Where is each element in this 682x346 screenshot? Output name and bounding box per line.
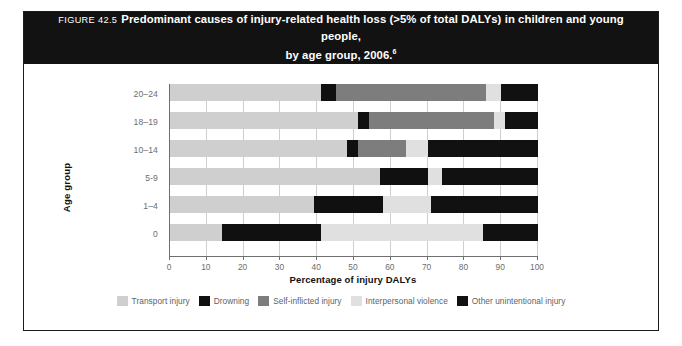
y-tick-label: 10–14: [96, 145, 158, 155]
x-tick-mark: [500, 256, 501, 260]
bar-segment: [336, 84, 487, 101]
x-tick-mark: [463, 256, 464, 260]
x-tick-label: 90: [485, 262, 515, 272]
y-axis-tick-labels: 20–2418–1910–145-91–40: [96, 86, 164, 254]
bar-segment: [222, 224, 321, 241]
legend-label: Interpersonal violence: [366, 296, 448, 306]
legend-label: Other unintentional injury: [472, 296, 566, 306]
x-tick-label: 30: [264, 262, 294, 272]
legend-item: Self-inflicted injury: [258, 296, 341, 306]
x-tick-label: 100: [522, 262, 552, 272]
bar-segment: [321, 224, 483, 241]
x-tick-label: 60: [375, 262, 405, 272]
bar-segment: [428, 140, 538, 157]
bar-segment: [170, 168, 380, 185]
legend-swatch: [457, 296, 468, 306]
bar-segment: [431, 196, 538, 213]
x-tick-mark: [390, 256, 391, 260]
y-tick-label: 5-9: [96, 173, 158, 183]
legend-label: Transport injury: [132, 296, 190, 306]
bar-segment: [442, 168, 538, 185]
y-axis-title: Age group: [61, 128, 72, 248]
y-tick-label: 20–24: [96, 89, 158, 99]
x-tick-mark: [537, 256, 538, 260]
figure-title-line-1: Predominant causes of injury-related hea…: [121, 13, 623, 42]
bar-row: [170, 112, 538, 129]
y-tick-label: 1–4: [96, 201, 158, 211]
chart-plot-area: Age group 20–2418–1910–145-91–40 0102030…: [24, 64, 658, 331]
stacked-bars: [170, 84, 538, 256]
x-tick-mark: [353, 256, 354, 260]
bar-segment: [358, 140, 406, 157]
bar-segment: [483, 224, 538, 241]
legend-swatch: [117, 296, 128, 306]
x-tick-label: 0: [154, 262, 184, 272]
x-tick-label: 40: [301, 262, 331, 272]
bar-segment: [347, 140, 358, 157]
legend-swatch: [351, 296, 362, 306]
x-tick-label: 20: [228, 262, 258, 272]
bar-segment: [170, 84, 321, 101]
bar-segment: [170, 112, 358, 129]
y-tick-label: 0: [96, 229, 158, 239]
bar-segment: [494, 112, 505, 129]
bar-segment: [383, 196, 431, 213]
bar-row: [170, 168, 538, 185]
bar-segment: [321, 84, 336, 101]
bar-segment: [486, 84, 501, 101]
x-tick-mark: [169, 256, 170, 260]
bar-segment: [170, 224, 222, 241]
y-tick-label: 18–19: [96, 117, 158, 127]
x-tick-mark: [206, 256, 207, 260]
bar-segment: [406, 140, 428, 157]
x-tick-label: 80: [448, 262, 478, 272]
page-title: FIGURE 42.5Predominant causes of injury-…: [50, 11, 632, 63]
legend-swatch: [199, 296, 210, 306]
x-tick-mark: [316, 256, 317, 260]
x-tick-mark: [243, 256, 244, 260]
legend-item: Interpersonal violence: [351, 296, 448, 306]
bar-segment: [358, 112, 369, 129]
bar-segment: [314, 196, 384, 213]
figure-number-label: FIGURE 42.5: [58, 15, 121, 25]
bar-segment: [170, 196, 314, 213]
x-tick-mark: [279, 256, 280, 260]
chart-legend: Transport injuryDrowningSelf-inflicted i…: [24, 296, 658, 306]
x-tick-mark: [427, 256, 428, 260]
figure-title-bar: FIGURE 42.5Predominant causes of injury-…: [24, 12, 658, 64]
bar-row: [170, 140, 538, 157]
legend-label: Drowning: [214, 296, 249, 306]
bar-segment: [501, 84, 538, 101]
legend-swatch: [258, 296, 269, 306]
x-axis-title: Percentage of injury DALYs: [169, 274, 537, 285]
x-tick-label: 50: [338, 262, 368, 272]
bar-segment: [369, 112, 494, 129]
bar-row: [170, 224, 538, 241]
figure-container: FIGURE 42.5Predominant causes of injury-…: [23, 11, 659, 331]
figure-title-footnote-marker: 6: [393, 48, 397, 55]
bar-segment: [380, 168, 428, 185]
legend-item: Other unintentional injury: [457, 296, 566, 306]
legend-label: Self-inflicted injury: [273, 296, 341, 306]
bar-segment: [505, 112, 538, 129]
bar-segment: [170, 140, 347, 157]
bar-row: [170, 84, 538, 101]
bar-row: [170, 196, 538, 213]
x-tick-label: 10: [191, 262, 221, 272]
legend-item: Transport injury: [117, 296, 190, 306]
figure-title-line-2: by age group, 2006.: [286, 49, 393, 61]
legend-item: Drowning: [199, 296, 249, 306]
x-tick-label: 70: [412, 262, 442, 272]
bar-segment: [428, 168, 443, 185]
